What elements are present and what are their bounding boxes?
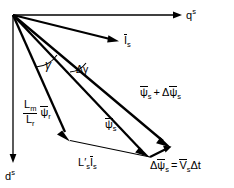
delta-flux-symbol: ψ xyxy=(157,159,165,171)
inductance-den-sub: r xyxy=(32,119,35,128)
flux-symbol-a: ψ xyxy=(140,86,148,98)
d-axis-label-sup: s xyxy=(11,168,15,177)
stator-flux-sub: s xyxy=(113,124,117,133)
flux-sub-a: s xyxy=(148,92,152,101)
q-axis-label: qs xyxy=(186,8,196,21)
stator-flux-symbol: ψ xyxy=(105,118,113,130)
fraction-denominator: Lr xyxy=(23,114,37,128)
plus-sign: + xyxy=(154,86,160,98)
delta-stator-flux-label: Δψs=VsΔt xyxy=(150,159,201,174)
rotor-flux-symbol-group: ψr xyxy=(40,106,50,121)
stator-flux-plus-delta-label: ψs+Δψs xyxy=(140,86,181,101)
stator-flux-label: ψs xyxy=(105,118,117,133)
vector-delta-stator-flux xyxy=(150,146,172,157)
gamma-angle-label: γ xyxy=(45,59,51,71)
leakage-current-sub: s xyxy=(93,162,97,171)
d-axis xyxy=(10,15,17,163)
flux-sub-b: s xyxy=(177,92,181,101)
delta-flux-sub: s xyxy=(165,165,169,174)
flux-symbol-b: ψ xyxy=(169,86,177,98)
delta-sign-a: Δ xyxy=(162,86,169,98)
equals-sign: = xyxy=(171,159,177,171)
inductance-ratio-fraction: Lm Lr xyxy=(23,99,37,127)
q-axis-label-sup: s xyxy=(192,7,196,16)
vector-diagram: qs ds Is γ Δγ Lm Lr ψr ψs+Δψs ψs L′sIs Δ… xyxy=(0,0,234,188)
leakage-current-symbol: I xyxy=(90,156,93,168)
delta-t: Δt xyxy=(190,159,200,171)
voltage-symbol: V xyxy=(179,159,186,171)
d-axis-label: ds xyxy=(5,169,15,182)
leakage-drop-label: L′sIs xyxy=(78,156,97,171)
rotor-flux-sub: r xyxy=(48,112,51,121)
fraction-numerator: Lm xyxy=(23,99,37,114)
vector-leakage-drop xyxy=(70,141,150,158)
q-axis xyxy=(13,12,182,19)
stator-current-sub: s xyxy=(127,40,131,49)
rotor-flux-symbol: ψ xyxy=(40,106,48,118)
stator-current-label: Is xyxy=(124,34,131,49)
rotor-flux-scaled-label: Lm Lr ψr xyxy=(23,99,51,127)
delta-sign-c: Δ xyxy=(150,159,157,171)
delta-gamma-angle-label: Δγ xyxy=(76,64,88,75)
stator-current-symbol: I xyxy=(124,34,127,46)
